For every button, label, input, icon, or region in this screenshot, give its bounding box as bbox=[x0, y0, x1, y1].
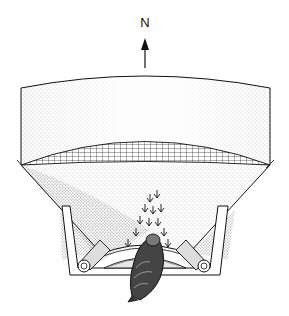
funnel-illustration bbox=[0, 0, 289, 316]
north-arrow-icon bbox=[141, 38, 149, 68]
